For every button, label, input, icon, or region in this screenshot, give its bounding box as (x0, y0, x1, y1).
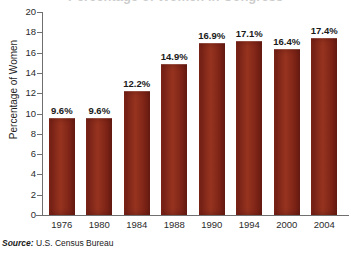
y-axis-tick-label: 12 (25, 88, 36, 98)
y-axis-tick-mark (37, 154, 42, 155)
y-axis-tick-label: 20 (25, 7, 36, 17)
y-axis-title: Percentage of Women (8, 30, 19, 150)
x-axis-tick-label: 2004 (306, 219, 344, 230)
bar (236, 41, 262, 215)
bar (49, 118, 75, 215)
bar-data-label: 9.6% (81, 105, 119, 116)
y-axis-tick-label: 2 (31, 190, 36, 200)
x-axis-tick-label: 1990 (193, 219, 231, 230)
x-axis-tick-label: 1980 (81, 219, 119, 230)
chart-figure: Percentage of Women in Congress 20181614… (0, 0, 351, 254)
x-axis-tick-label: 1976 (43, 219, 81, 230)
bar-data-label: 16.4% (268, 36, 306, 47)
x-axis-tick-label: 1988 (156, 219, 194, 230)
bar-data-label: 12.2% (118, 78, 156, 89)
x-axis-tick-label: 1994 (231, 219, 269, 230)
y-axis-tick-mark (37, 73, 42, 74)
y-axis-tick-mark (37, 195, 42, 196)
bar (86, 118, 112, 215)
y-axis-tick-label: 18 (25, 27, 36, 37)
bar (199, 43, 225, 215)
chart-title-cropped: Percentage of Women in Congress (0, 0, 351, 5)
y-axis-tick-label: 16 (25, 48, 36, 58)
y-axis-tick-label: 8 (31, 129, 36, 139)
y-axis-tick-mark (37, 215, 42, 216)
bar-data-label: 14.9% (156, 51, 194, 62)
bar (311, 38, 337, 215)
bar-data-label: 9.6% (43, 105, 81, 116)
bar-data-label: 17.4% (306, 25, 344, 36)
x-axis-line (36, 215, 349, 216)
y-axis-tick-mark (37, 53, 42, 54)
source-note: Source: U.S. Census Bureau (2, 238, 114, 248)
chart-title: Percentage of Women in Congress (0, 0, 351, 4)
source-label: Source: (2, 238, 34, 248)
y-axis-tick-mark (37, 12, 42, 13)
y-axis-tick-label: 4 (31, 169, 36, 179)
bar (124, 91, 150, 215)
x-axis-tick-label: 2000 (268, 219, 306, 230)
source-text: U.S. Census Bureau (36, 238, 113, 248)
x-axis-tick-label: 1984 (118, 219, 156, 230)
y-axis-tick-mark (37, 134, 42, 135)
bar (161, 64, 187, 215)
bar-data-label: 16.9% (193, 30, 231, 41)
y-axis-tick-mark (37, 93, 42, 94)
y-axis-tick-mark (37, 32, 42, 33)
y-axis-tick-label: 10 (25, 109, 36, 119)
y-axis-tick-label: 6 (31, 149, 36, 159)
bar-data-label: 17.1% (231, 28, 269, 39)
y-axis-tick-mark (37, 114, 42, 115)
bar (274, 49, 300, 215)
y-axis-tick-mark (37, 174, 42, 175)
y-axis-tick-label: 14 (25, 68, 36, 78)
